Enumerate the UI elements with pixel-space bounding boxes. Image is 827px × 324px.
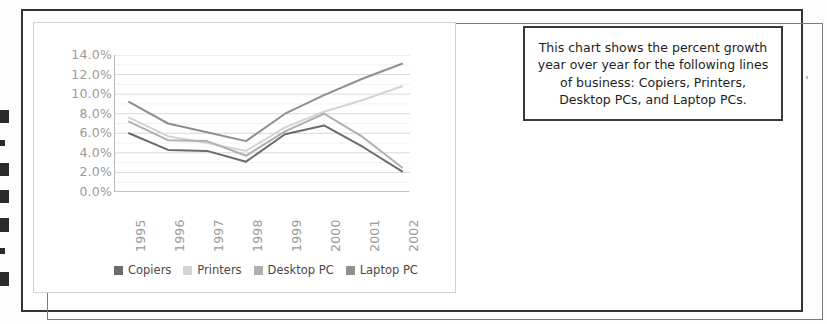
legend-swatch-icon <box>346 266 355 275</box>
x-axis-tick-label: 1996 <box>172 190 187 252</box>
legend-label: Printers <box>197 263 241 277</box>
chart-description-text: This chart shows the percent growth year… <box>525 39 781 108</box>
growth-line-chart[interactable]: 14.0%12.0%10.0%8.0%6.0%4.0%2.0%0.0% 1995… <box>33 22 456 293</box>
legend-item[interactable]: Copiers <box>114 263 171 277</box>
page-edge-bleed-mark <box>0 140 5 146</box>
page-canvas: 14.0%12.0%10.0%8.0%6.0%4.0%2.0%0.0% 1995… <box>0 0 827 324</box>
chart-plot-wrapper: 14.0%12.0%10.0%8.0%6.0%4.0%2.0%0.0% 1995… <box>34 23 457 294</box>
legend-item[interactable]: Desktop PC <box>254 263 334 277</box>
y-axis-tick-labels: 14.0%12.0%10.0%8.0%6.0%4.0%2.0%0.0% <box>42 23 112 294</box>
legend-label: Desktop PC <box>268 263 334 277</box>
legend-swatch-icon <box>114 266 123 275</box>
chart-series-line <box>129 86 402 151</box>
x-axis-tick-label: 1999 <box>289 190 304 252</box>
y-axis-tick-label: 6.0% <box>50 127 112 140</box>
x-axis-tick-label: 1997 <box>211 190 226 252</box>
page-edge-bleed-mark <box>0 163 9 176</box>
y-axis-tick-label: 8.0% <box>50 108 112 121</box>
y-axis-tick-label: 10.0% <box>50 88 112 101</box>
y-axis-tick-label: 12.0% <box>50 69 112 82</box>
chart-description-textbox: This chart shows the percent growth year… <box>523 26 783 121</box>
x-axis-tick-label: 1998 <box>250 190 265 252</box>
page-edge-bleed-mark <box>0 190 9 203</box>
x-axis-tick-labels: 19951996199719981999200020012002 <box>114 194 409 256</box>
y-axis-tick-label: 2.0% <box>50 166 112 179</box>
legend-swatch-icon <box>254 266 263 275</box>
x-axis-tick-label: 1995 <box>133 190 148 252</box>
y-axis-tick-label: 0.0% <box>50 186 112 199</box>
legend-item[interactable]: Laptop PC <box>346 263 418 277</box>
legend-swatch-icon <box>183 266 192 275</box>
page-edge-bleed-mark <box>0 218 9 232</box>
legend-label: Laptop PC <box>360 263 418 277</box>
chart-series-svg <box>115 55 410 192</box>
chart-series-line <box>129 114 402 168</box>
y-axis-tick-label: 4.0% <box>50 147 112 160</box>
x-axis-tick-label: 2000 <box>328 190 343 252</box>
chart-plot-area <box>114 55 409 192</box>
chart-legend[interactable]: CopiersPrintersDesktop PCLaptop PC <box>114 261 434 279</box>
legend-item[interactable]: Printers <box>183 263 241 277</box>
chart-series-line <box>129 125 402 171</box>
page-edge-bleed-mark <box>0 110 9 123</box>
page-edge-bleed-mark <box>0 272 9 286</box>
legend-label: Copiers <box>128 263 171 277</box>
x-axis-tick-label: 2001 <box>367 190 382 252</box>
x-axis-tick-label: 2002 <box>406 190 421 252</box>
y-axis-tick-label: 14.0% <box>50 49 112 62</box>
page-edge-bleed-mark <box>0 248 5 254</box>
chart-series-line <box>129 64 402 141</box>
